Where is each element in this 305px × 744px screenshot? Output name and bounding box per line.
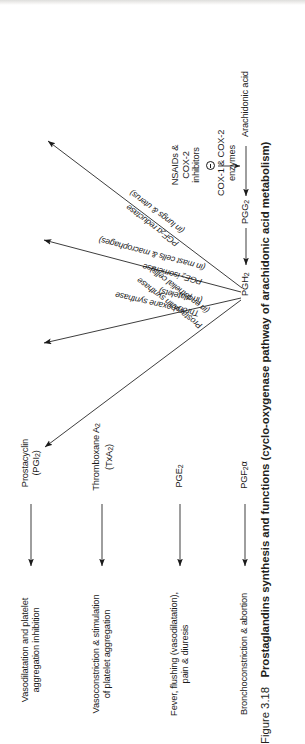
function-pge2-line-1: Fever, flushing (vasodilatation),	[169, 570, 180, 738]
nsaids-line-2: COX-2	[181, 133, 192, 197]
function-thromboxane-line-2: of platelet aggregation	[102, 570, 113, 738]
cox-enzyme-line-2: enzymes	[227, 130, 238, 196]
product-prostacyclin-line-2: (PGI2)	[31, 430, 44, 496]
product-thromboxane-line-1: Thromboxane A2	[91, 417, 104, 497]
product-pge2-line-1: PGE2	[174, 456, 187, 496]
product-pgf2a-line-1: PGF2α	[239, 453, 252, 497]
label-cox-enzymes: COX-1 & COX-2 enzymes	[216, 130, 237, 196]
function-thromboxane-line-1: Vasoconstriction & stimulation	[91, 570, 102, 738]
node-pgg2: PGG2	[240, 200, 252, 224]
node-arachidonic-acid: Arachidonic acid	[240, 71, 251, 137]
product-prostacyclin-line-1: Prostacyclin	[20, 430, 31, 496]
function-thromboxane: Vasoconstriction & stimulation of platel…	[91, 570, 112, 738]
function-pgf2a: Bronchoconstriction & abortion	[239, 570, 250, 738]
figure-caption: Figure 3.18 Prostaglandins synthesis and…	[258, 0, 272, 744]
function-pge2-line-2: pain & diuresis	[180, 570, 191, 738]
function-pge2: Fever, flushing (vasodilatation), pain &…	[169, 570, 190, 738]
nsaids-line-3: inhibitors	[191, 133, 202, 197]
function-prostacyclin-line-1: Vasodilatation and platelet	[20, 570, 31, 730]
product-prostacyclin: Prostacyclin (PGI2)	[20, 430, 43, 496]
figure-stage: Arachidonic acid PGG2 PGH2 COX-1 & COX-2…	[0, 0, 305, 744]
function-prostacyclin-line-2: aggregation inhibition	[31, 570, 42, 730]
figure-number: Figure 3.18	[259, 687, 271, 744]
figure-title: Prostaglandins synthesis and functions (…	[259, 142, 271, 678]
node-pgh2: PGH2	[240, 273, 252, 296]
product-thromboxane-line-2: (TxA2)	[104, 417, 117, 497]
product-pge2: PGE2	[174, 456, 187, 496]
cox-enzyme-line-1: COX-1 & COX-2	[216, 130, 227, 196]
label-nsaids-inhibitors-text: NSAIDs & COX-2 inhibitors	[170, 133, 202, 197]
nsaids-line-1: NSAIDs &	[170, 133, 181, 197]
branch-arrow-prostacyclin	[45, 300, 241, 447]
function-pgf2a-line-1: Bronchoconstriction & abortion	[239, 570, 250, 738]
function-prostacyclin: Vasodilatation and platelet aggregation …	[20, 570, 41, 730]
product-thromboxane-a2: Thromboxane A2 (TxA2)	[91, 417, 117, 497]
product-pgf2a: PGF2α	[239, 453, 252, 497]
